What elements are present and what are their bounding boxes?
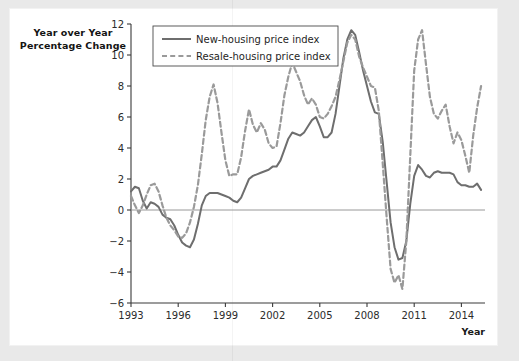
y-tick-label: 8 [118, 81, 124, 92]
figure-root: Year over Year Percentage Change −6−4−20… [0, 0, 519, 361]
y-tick-label: 0 [118, 205, 124, 216]
x-tick-label: 2005 [307, 310, 332, 321]
x-tick-label: 2011 [401, 310, 426, 321]
series-layer [131, 30, 481, 289]
y-tick-label: 4 [118, 143, 124, 154]
legend-label-1: Resale-housing price index [196, 51, 331, 62]
legend-label-0: New-housing price index [196, 34, 320, 45]
chart-legend[interactable]: New-housing price indexResale-housing pr… [153, 26, 338, 66]
y-tick-label: 2 [118, 174, 124, 185]
y-tick-label: 6 [118, 112, 124, 123]
x-tick-label: 2014 [449, 310, 474, 321]
y-tick-label: −2 [109, 236, 124, 247]
x-tick-label: 2002 [260, 310, 285, 321]
y-tick-label: 10 [111, 50, 124, 61]
x-axis-title: Year [460, 326, 485, 337]
series-line-resale [131, 30, 481, 289]
line-chart: −6−4−20246810121993199619992002200520082… [0, 0, 519, 361]
x-axis-title-label: Year [460, 326, 485, 337]
x-tick-label: 1993 [118, 310, 143, 321]
x-tick-label: 1996 [165, 310, 190, 321]
x-tick-label: 2008 [354, 310, 379, 321]
x-tick-label: 1999 [213, 310, 238, 321]
y-tick-label: 12 [111, 19, 124, 30]
y-tick-label: −4 [109, 267, 124, 278]
y-tick-label: −6 [109, 298, 124, 309]
